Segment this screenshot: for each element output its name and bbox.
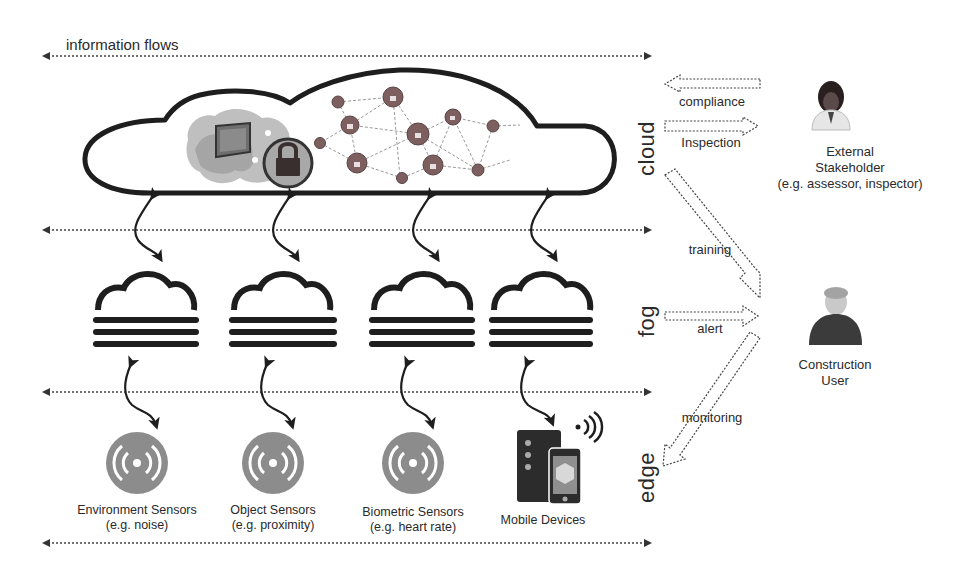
edge-device-label-object: Object Sensors (e.g. proximity) bbox=[230, 503, 315, 533]
construction-user-label: Construction User bbox=[799, 357, 872, 389]
fog-nodes bbox=[96, 274, 590, 344]
wifi-signal-icon bbox=[576, 412, 603, 442]
flow-label-alert: alert bbox=[697, 321, 722, 336]
external-stakeholder-avatar bbox=[812, 81, 850, 130]
monitoring-arrow bbox=[663, 332, 760, 466]
construction-user-line1: Construction bbox=[799, 357, 872, 373]
device-name: Environment Sensors bbox=[77, 503, 197, 518]
cloud-fog-connectors bbox=[135, 196, 555, 258]
flow-label-training: training bbox=[689, 242, 732, 257]
flow-label-inspection: Inspection bbox=[681, 135, 740, 150]
device-name: Biometric Sensors bbox=[362, 505, 463, 520]
stakeholder-flow-arrows bbox=[663, 75, 760, 466]
edge-device-label-biometric: Biometric Sensors (e.g. heart rate) bbox=[362, 505, 463, 535]
device-name: Mobile Devices bbox=[501, 513, 586, 528]
sensor-icon bbox=[242, 432, 304, 494]
compliance-arrow bbox=[665, 75, 760, 92]
edge-device-label-mobile: Mobile Devices bbox=[501, 513, 586, 528]
external-stakeholder-line3: (e.g. assessor, inspector) bbox=[777, 176, 922, 192]
fog-icon bbox=[372, 274, 472, 344]
layer-label-cloud: cloud bbox=[634, 121, 660, 176]
edge-devices bbox=[106, 412, 602, 504]
edge-device-label-environment: Environment Sensors (e.g. noise) bbox=[77, 503, 197, 533]
device-example: (e.g. noise) bbox=[77, 518, 197, 533]
construction-user-avatar bbox=[809, 287, 862, 345]
fog-edge-connectors bbox=[125, 364, 552, 425]
flow-label-compliance: compliance bbox=[679, 94, 745, 109]
external-stakeholder-line2: Stakeholder bbox=[777, 160, 922, 176]
diagram-canvas bbox=[0, 0, 953, 573]
layer-label-edge: edge bbox=[634, 452, 660, 503]
iot-architecture-diagram: information flows cloud fog edge complia… bbox=[0, 0, 953, 573]
external-stakeholder-line1: External bbox=[777, 144, 922, 160]
external-stakeholder-label: External Stakeholder (e.g. assessor, ins… bbox=[777, 144, 922, 192]
device-name: Object Sensors bbox=[230, 503, 315, 518]
diagram-title: information flows bbox=[66, 36, 179, 53]
sensor-icon bbox=[106, 432, 168, 494]
training-arrow bbox=[665, 169, 760, 298]
mobile-devices-icon bbox=[517, 412, 602, 504]
layer-label-fog: fog bbox=[634, 305, 660, 337]
fog-icon bbox=[492, 274, 590, 344]
device-example: (e.g. heart rate) bbox=[362, 520, 463, 535]
flow-label-monitoring: monitoring bbox=[682, 410, 743, 425]
sensor-icon bbox=[382, 432, 444, 494]
fog-icon bbox=[232, 274, 334, 344]
construction-user-line2: User bbox=[799, 373, 872, 389]
inspection-arrow bbox=[665, 117, 758, 135]
device-example: (e.g. proximity) bbox=[230, 518, 315, 533]
fog-icon bbox=[96, 274, 196, 344]
